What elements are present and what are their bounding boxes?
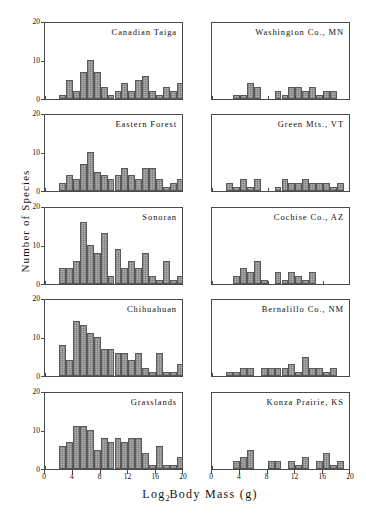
histogram-bar	[59, 268, 66, 284]
histogram-bar	[121, 83, 128, 99]
histogram-bar	[80, 325, 87, 376]
x-tick-mark	[323, 373, 324, 376]
y-tick-label: 20	[33, 110, 41, 118]
panel-chihuahuan: Chihuahuan01020	[44, 299, 183, 377]
x-tick-mark	[128, 188, 129, 191]
histogram-bar	[80, 426, 87, 469]
panel-title: Sonoran	[142, 212, 177, 222]
x-tick-mark	[295, 96, 296, 99]
histogram-bar	[302, 457, 309, 469]
x-tick-mark	[73, 281, 74, 284]
histogram-bar	[240, 457, 247, 469]
histogram-bar	[149, 91, 156, 99]
histogram-bar	[170, 465, 177, 469]
histogram-bar	[330, 91, 337, 99]
y-tick-label: 10	[33, 149, 41, 157]
histogram-bar	[323, 183, 330, 191]
x-tick-mark	[101, 373, 102, 376]
panel-canadian-taiga: Canadian Taiga01020	[44, 22, 183, 100]
histogram-bar	[135, 438, 142, 469]
y-tick-label: 0	[36, 466, 40, 474]
histogram-bar	[261, 368, 268, 376]
panel-title: Green Mts., VT	[278, 119, 344, 129]
histogram-bar	[288, 183, 295, 191]
histogram-bar	[87, 430, 94, 469]
x-tick-mark	[240, 188, 241, 191]
x-tick-label: 4	[237, 473, 241, 481]
x-tick-label: 16	[151, 473, 159, 481]
histogram-bar	[268, 461, 275, 469]
histogram-bar	[337, 183, 344, 191]
histogram-bar	[66, 80, 73, 100]
histogram-bar	[254, 261, 261, 284]
x-tick-mark	[268, 466, 269, 469]
y-tick-mark	[41, 99, 45, 100]
histogram-bar	[135, 179, 142, 191]
histogram-bar	[177, 457, 183, 469]
histogram-bar	[226, 183, 233, 191]
y-tick-label: 10	[33, 57, 41, 65]
histogram-bar	[101, 87, 108, 99]
histogram-bar	[101, 349, 108, 376]
y-tick-mark	[41, 61, 45, 62]
histogram-bar	[177, 364, 183, 376]
histogram-bar	[163, 87, 170, 99]
histogram-bar	[309, 183, 316, 191]
histogram-bar	[302, 179, 309, 191]
histogram-bar	[94, 72, 101, 99]
x-tick-mark	[156, 281, 157, 284]
x-tick-mark	[295, 466, 296, 469]
x-tick-label: 12	[124, 473, 132, 481]
histogram-bar	[73, 426, 80, 469]
x-axis-title-main: Log	[142, 487, 165, 501]
x-tick-mark	[295, 281, 296, 284]
histogram-bar	[330, 465, 337, 469]
histogram-bar	[115, 91, 122, 99]
x-tick-label: 8	[98, 473, 102, 481]
x-tick-mark	[128, 373, 129, 376]
x-tick-label: 20	[179, 473, 187, 481]
histogram-bar	[121, 353, 128, 376]
x-tick-mark	[323, 96, 324, 99]
histogram-bar	[163, 187, 170, 191]
histogram-bar	[316, 95, 323, 99]
histogram-bar	[282, 280, 289, 284]
panel-title: Bernalillo Co., NM	[262, 304, 344, 314]
histogram-bar	[135, 80, 142, 100]
y-tick-label: 20	[33, 295, 41, 303]
histogram-bar	[94, 172, 101, 192]
histogram-bar	[254, 87, 261, 99]
x-tick-mark	[101, 466, 102, 469]
histogram-bar	[115, 175, 122, 191]
histogram-bar	[295, 87, 302, 99]
x-tick-mark	[128, 96, 129, 99]
histogram-bar	[170, 183, 177, 191]
histogram-bar	[66, 360, 73, 376]
y-tick-label: 0	[36, 281, 40, 289]
y-tick-label: 20	[33, 203, 41, 211]
x-tick-mark	[323, 281, 324, 284]
histogram-bar	[275, 461, 282, 469]
histogram-bar	[101, 438, 108, 469]
histogram-bar	[240, 268, 247, 284]
x-tick-mark	[295, 188, 296, 191]
histogram-bar	[87, 245, 94, 284]
histogram-bar	[288, 272, 295, 284]
panel-title: Konza Prairie, KS	[267, 397, 344, 407]
histogram-bar	[149, 276, 156, 284]
histogram-bar	[247, 187, 254, 191]
histogram-bar	[115, 249, 122, 284]
histogram-bar	[282, 179, 289, 191]
y-tick-mark	[41, 153, 45, 154]
histogram-bar	[156, 280, 163, 284]
x-tick-mark	[45, 96, 46, 99]
histogram-bar	[163, 465, 170, 469]
x-tick-mark	[212, 96, 213, 99]
histogram-bar	[156, 179, 163, 191]
histogram-bar	[316, 461, 323, 469]
histogram-bar	[87, 152, 94, 191]
x-tick-label: 0	[42, 473, 46, 481]
x-tick-label: 4	[70, 473, 74, 481]
x-tick-mark	[128, 281, 129, 284]
panel-title: Cochise Co., AZ	[274, 212, 344, 222]
